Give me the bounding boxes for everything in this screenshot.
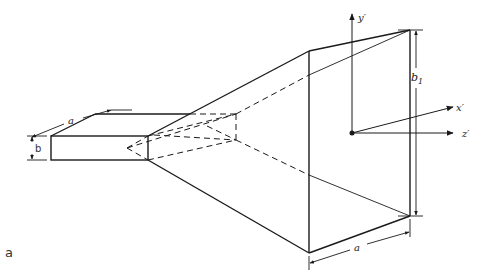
aperture-width-label: a: [354, 242, 360, 253]
inner-top-diagonal: [309, 30, 410, 75]
inner-bottom-diagonal: [309, 175, 410, 216]
x-axis: [352, 107, 453, 133]
z-axis-label: z′: [461, 128, 470, 139]
panel-label: a: [5, 245, 13, 260]
waveguide-width-label: a: [68, 115, 74, 126]
b1-label: b1: [411, 71, 423, 86]
y-axis-label: y′: [357, 12, 367, 23]
horn-bottom-front-edge: [148, 160, 309, 253]
horn-top-front-edge: [148, 51, 309, 136]
waveguide-front-face: [51, 136, 148, 160]
horn-flare: [148, 30, 410, 253]
x-axis-label: x′: [456, 102, 465, 113]
horn-top-aperture-edge: [309, 30, 410, 51]
horn-antenna-diagram: y′ x′ z′ b1 a a b a: [0, 0, 491, 279]
waveguide-height-label: b: [35, 143, 41, 154]
hidden-edges: [127, 75, 309, 175]
origin-dot: [350, 131, 355, 136]
